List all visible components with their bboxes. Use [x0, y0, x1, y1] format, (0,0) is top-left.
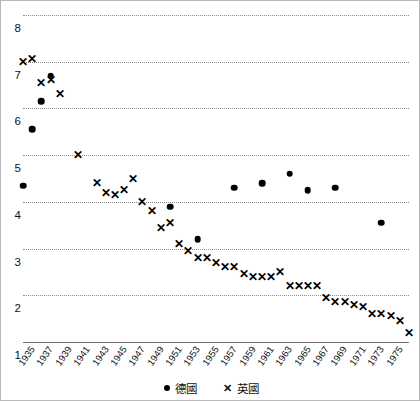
legend-dot-icon: [164, 385, 170, 391]
data-point-series-0: [286, 171, 293, 178]
data-point-series-0: [332, 185, 339, 192]
data-point-series-1: ✕: [54, 89, 65, 100]
y-tick-label: 7: [3, 70, 21, 82]
x-tick-label: 1963: [273, 344, 294, 368]
data-point-series-0: [194, 236, 201, 243]
y-tick-label: 3: [3, 257, 21, 269]
data-point-series-0: [231, 185, 238, 192]
data-point-series-1: ✕: [128, 173, 139, 184]
x-tick-label: 1937: [34, 344, 55, 368]
x-tick-label: 1949: [145, 344, 166, 368]
legend-cross-icon: ✕: [223, 383, 232, 394]
x-tick-label: 1941: [71, 344, 92, 368]
x-tick-label: 1943: [89, 344, 110, 368]
gridline-y-3: [23, 249, 409, 250]
legend-label: 英國: [237, 380, 259, 396]
gridline-y-4: [23, 202, 409, 203]
x-axis-labels: 1935193719391941194319451947194919511953…: [23, 342, 409, 382]
gridline-y-2: [23, 295, 409, 296]
scatter-chart: 87654321 ✕✕✕✕✕✕✕✕✕✕✕✕✕✕✕✕✕✕✕✕✕✕✕✕✕✕✕✕✕✕✕…: [0, 0, 420, 401]
x-tick-label: 1939: [53, 344, 74, 368]
data-point-series-0: [38, 98, 45, 105]
x-tick-label: 1957: [218, 344, 239, 368]
data-point-series-1: ✕: [404, 327, 415, 338]
y-tick-label: 4: [3, 210, 21, 222]
plot-area: ✕✕✕✕✕✕✕✕✕✕✕✕✕✕✕✕✕✕✕✕✕✕✕✕✕✕✕✕✕✕✕✕✕✕✕✕✕✕✕✕…: [23, 15, 409, 342]
y-tick-label: 6: [3, 117, 21, 129]
data-point-series-1: ✕: [119, 185, 130, 196]
data-point-series-1: ✕: [45, 75, 56, 86]
data-point-series-1: ✕: [27, 54, 38, 65]
x-tick-label: 1975: [383, 344, 404, 368]
x-tick-label: 1947: [126, 344, 147, 368]
x-tick-label: 1967: [310, 344, 331, 368]
data-point-series-1: ✕: [73, 150, 84, 161]
x-tick-label: 1971: [347, 344, 368, 368]
y-tick-label: 8: [3, 23, 21, 35]
x-tick-label: 1953: [181, 344, 202, 368]
x-tick-label: 1935: [16, 344, 37, 368]
gridline-y-7: [23, 62, 409, 63]
x-tick-label: 1969: [328, 344, 349, 368]
y-tick-label: 5: [3, 163, 21, 175]
data-point-series-0: [305, 187, 312, 194]
legend-label: 德國: [175, 380, 197, 396]
gridline-y-8: [23, 15, 409, 16]
y-tick-label: 2: [3, 304, 21, 316]
x-tick-label: 1945: [108, 344, 129, 368]
x-tick-label: 1973: [365, 344, 386, 368]
data-point-series-1: ✕: [146, 206, 157, 217]
gridline-y-6: [23, 108, 409, 109]
data-point-series-0: [167, 203, 174, 210]
chart-legend: 德國✕英國: [1, 380, 420, 396]
data-point-series-0: [378, 220, 385, 227]
x-tick-label: 1955: [200, 344, 221, 368]
x-tick-label: 1959: [236, 344, 257, 368]
data-point-series-1: ✕: [275, 266, 286, 277]
data-point-series-0: [29, 126, 36, 133]
x-tick-label: 1961: [255, 344, 276, 368]
x-tick-label: 1951: [163, 344, 184, 368]
legend-item-0: 德國: [164, 380, 197, 396]
data-point-series-0: [20, 182, 27, 189]
data-point-series-1: ✕: [165, 217, 176, 228]
x-tick-label: 1965: [292, 344, 313, 368]
legend-item-1: ✕英國: [223, 380, 259, 396]
data-point-series-0: [259, 180, 266, 187]
